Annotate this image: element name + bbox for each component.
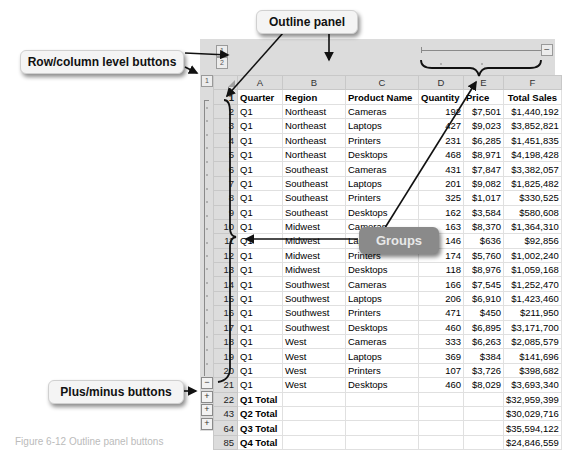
plus-minus-callout: Plus/minus buttons — [48, 380, 184, 404]
figure-caption: Figure 6-12 Outline panel buttons — [15, 436, 163, 447]
level-buttons-callout: Row/column level buttons — [20, 50, 184, 74]
groups-callout: Groups — [359, 227, 439, 254]
outline-panel-callout: Outline panel — [256, 10, 358, 34]
